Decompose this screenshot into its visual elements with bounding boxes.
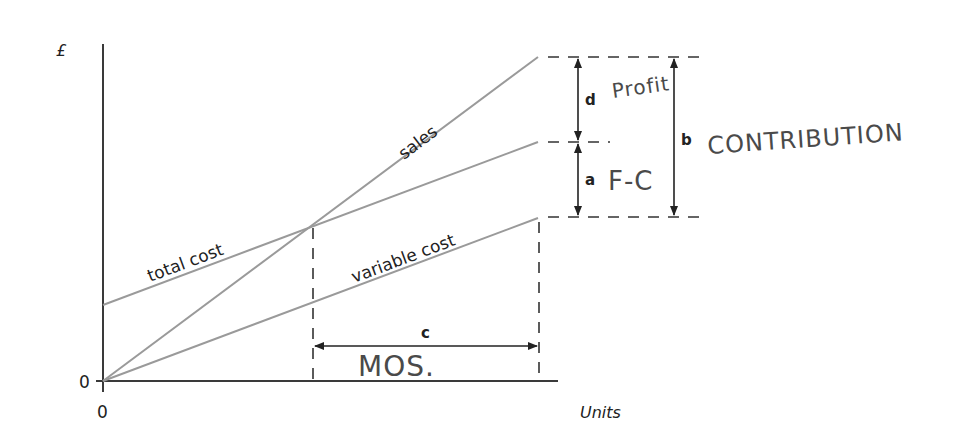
x-origin-label: 0 <box>97 402 108 422</box>
axes <box>96 44 558 392</box>
total-cost-line <box>103 142 538 305</box>
sales-label: sales <box>394 121 441 163</box>
handwritten-fixed-cost: F-C <box>608 166 654 196</box>
dimension-c-label: c <box>421 324 430 342</box>
dimension-d-label: d <box>585 91 596 109</box>
handwritten-profit: Profit <box>610 71 671 103</box>
handwritten-margin-of-safety: MOS. <box>358 350 435 383</box>
handwritten-contribution: CONTRIBUTION <box>706 118 904 160</box>
y-origin-label: 0 <box>79 372 90 392</box>
y-axis-label: £ <box>56 41 67 60</box>
x-axis-label: Units <box>580 403 621 422</box>
dimension-b-label: b <box>681 131 692 149</box>
variable-cost-label: variable cost <box>348 230 458 287</box>
sales-line <box>103 57 538 381</box>
dimension-a-label: a <box>585 171 595 189</box>
variable-cost-line <box>103 218 538 381</box>
break-even-chart: £ 0 0 Units sales total cost variable co… <box>0 0 960 446</box>
